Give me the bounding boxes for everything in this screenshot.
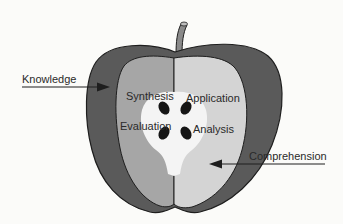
label-comprehension: Comprehension	[249, 151, 327, 162]
apple-diagram	[0, 0, 343, 224]
label-analysis: Analysis	[193, 124, 234, 135]
label-knowledge: Knowledge	[22, 74, 76, 85]
stem-top	[181, 22, 188, 26]
label-application: Application	[186, 93, 240, 104]
label-synthesis: Synthesis	[126, 91, 174, 102]
label-evaluation: Evaluation	[120, 121, 171, 132]
